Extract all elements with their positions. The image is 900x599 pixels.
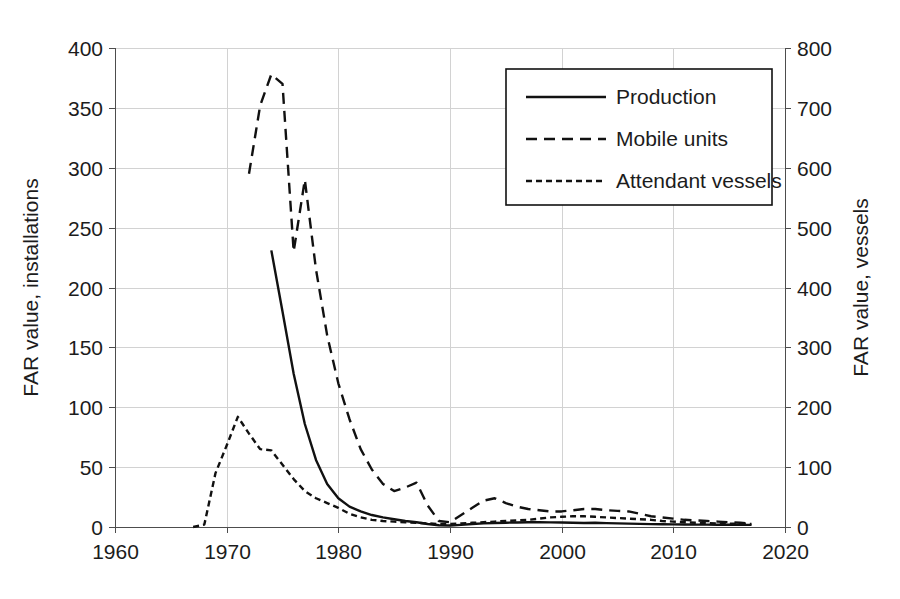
x-axis-tick-label: 1960 (92, 540, 139, 563)
chart-legend: ProductionMobile unitsAttendant vessels (506, 69, 782, 205)
y-axis-left-title: FAR value, installations (19, 178, 42, 396)
y-axis-left-tick-label: 50 (80, 456, 103, 479)
y-axis-right-tick-label: 100 (797, 456, 832, 479)
y-axis-left-tick-label: 200 (68, 277, 103, 300)
x-axis-tick-label: 1970 (204, 540, 251, 563)
x-axis-tick-label: 1980 (315, 540, 362, 563)
y-axis-right-tick-label: 600 (797, 157, 832, 180)
y-axis-left-tick-label: 150 (68, 336, 103, 359)
x-axis-tick-label: 1990 (427, 540, 474, 563)
chart-figure: 0501001502002503003504000100200300400500… (0, 0, 900, 599)
y-axis-left-tick-label: 0 (91, 516, 103, 539)
y-axis-right-tick-label: 400 (797, 277, 832, 300)
y-axis-right-tick-label: 300 (797, 336, 832, 359)
y-axis-right-tick-label: 800 (797, 37, 832, 60)
y-axis-left-tick-label: 350 (68, 97, 103, 120)
line-chart: 0501001502002503003504000100200300400500… (0, 0, 900, 599)
legend-label-attendant-vessels: Attendant vessels (616, 169, 782, 192)
y-axis-right-tick-label: 700 (797, 97, 832, 120)
y-axis-left-tick-label: 300 (68, 157, 103, 180)
legend-label-production: Production (616, 85, 716, 108)
x-axis-tick-label: 2020 (762, 540, 809, 563)
y-axis-right-tick-label: 200 (797, 396, 832, 419)
y-axis-right-tick-label: 500 (797, 217, 832, 240)
y-axis-left-tick-label: 400 (68, 37, 103, 60)
x-axis-tick-label: 2010 (650, 540, 697, 563)
y-axis-left-tick-label: 250 (68, 217, 103, 240)
legend-label-mobile-units: Mobile units (616, 127, 728, 150)
x-axis-tick-label: 2000 (539, 540, 586, 563)
y-axis-left-tick-label: 100 (68, 396, 103, 419)
y-axis-right-tick-label: 0 (797, 516, 809, 539)
y-axis-right-title: FAR value, vessels (849, 198, 872, 377)
